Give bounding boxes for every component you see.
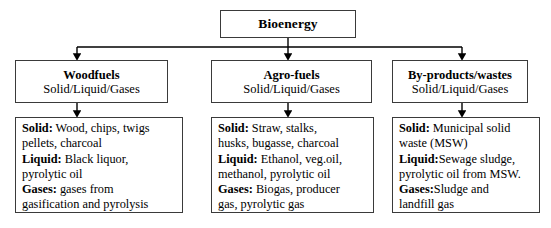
node-details-woodfuels: Solid: Wood, chips, twigspellets, charco… xyxy=(15,117,183,213)
detail-text-line: pyrolytic oil from MSW. xyxy=(399,167,534,182)
category-subtitle-by-products-wastes: Solid/Liquid/Gases xyxy=(412,82,509,96)
detail-group-label: Liquid: xyxy=(399,152,439,166)
detail-text-line: Gases: gases from xyxy=(22,182,177,197)
node-category-by-products-wastes: By-products/wastes Solid/Liquid/Gases xyxy=(392,60,528,103)
category-subtitle-woodfuels: Solid/Liquid/Gases xyxy=(43,82,140,96)
detail-text-line: gas, pyrolytic gas xyxy=(218,197,368,212)
detail-group-label: Liquid: xyxy=(218,152,258,166)
detail-text-line: Liquid: Ethanol, veg.oil, xyxy=(218,152,368,167)
detail-text-line: Gases:Sludge and xyxy=(399,182,534,197)
node-bioenergy-root: Bioenergy xyxy=(220,10,356,38)
detail-text-line: gasification and pyrolysis xyxy=(22,197,177,212)
detail-text-line: methanol, pyrolytic oil xyxy=(218,167,368,182)
detail-group-label: Solid: xyxy=(22,121,53,135)
category-title-woodfuels: Woodfuels xyxy=(63,68,119,82)
detail-text-line: husks, bugasse, charcoal xyxy=(218,136,368,151)
category-title-by-products-wastes: By-products/wastes xyxy=(408,68,512,82)
detail-group-label: Gases: xyxy=(399,182,434,196)
detail-text-line: Solid: Straw, stalks, xyxy=(218,121,368,136)
detail-text-line: Solid: Municipal solid xyxy=(399,121,534,136)
detail-group-label: Solid: xyxy=(218,121,249,135)
detail-group-label: Solid: xyxy=(399,121,430,135)
category-title-agro-fuels: Agro-fuels xyxy=(263,68,319,82)
detail-group-label: Liquid: xyxy=(22,152,62,166)
node-details-agro-fuels: Solid: Straw, stalks,husks, bugasse, cha… xyxy=(211,117,374,213)
detail-text-line: landfill gas xyxy=(399,197,534,212)
category-subtitle-agro-fuels: Solid/Liquid/Gases xyxy=(243,82,340,96)
node-category-agro-fuels: Agro-fuels Solid/Liquid/Gases xyxy=(211,60,372,103)
root-label: Bioenergy xyxy=(258,16,317,32)
detail-group-label: Gases: xyxy=(218,182,253,196)
detail-text-line: pellets, charcoal xyxy=(22,136,177,151)
detail-text-line: Liquid:Sewage sludge, xyxy=(399,152,534,167)
detail-group-label: Gases: xyxy=(22,182,57,196)
detail-text-line: Liquid: Black liquor, xyxy=(22,152,177,167)
bioenergy-diagram: Bioenergy Woodfuels Solid/Liquid/Gases A… xyxy=(0,0,551,228)
detail-text-line: Gases: Biogas, producer xyxy=(218,182,368,197)
node-details-by-products-wastes: Solid: Municipal solidwaste (MSW)Liquid:… xyxy=(392,117,540,213)
detail-text-line: pyrolytic oil xyxy=(22,167,177,182)
detail-text-line: Solid: Wood, chips, twigs xyxy=(22,121,177,136)
node-category-woodfuels: Woodfuels Solid/Liquid/Gases xyxy=(15,60,168,103)
detail-text-line: waste (MSW) xyxy=(399,136,534,151)
